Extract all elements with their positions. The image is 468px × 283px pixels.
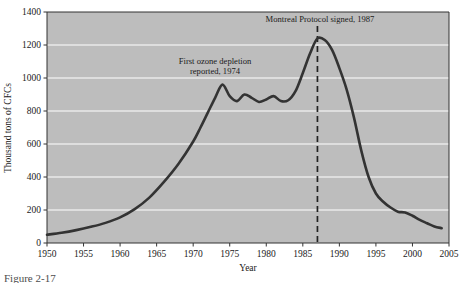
chart-svg: 0200400600800100012001400 19501955196019… [0,0,468,283]
x-tick-label: 1965 [147,249,166,259]
plot-background [47,12,449,243]
annotation-first-ozone-depletion-line1: First ozone depletion [179,56,252,66]
x-tick-label: 2005 [440,249,459,259]
y-tick-label: 1000 [22,73,41,83]
x-axis: 1950195519601965197019751980198519901995… [38,243,459,259]
y-tick-label: 1400 [22,7,41,17]
x-tick-label: 1970 [184,249,203,259]
x-tick-label: 1950 [38,249,57,259]
y-tick-label: 1200 [22,40,41,50]
x-tick-label: 1995 [366,249,385,259]
y-axis-title: Thousand tons of CFCs [3,83,13,173]
x-tick-label: 1955 [74,249,93,259]
x-tick-label: 1985 [293,249,312,259]
y-tick-label: 0 [36,238,41,248]
figure-caption: Figure 2-17 [4,272,56,283]
x-tick-label: 2000 [403,249,422,259]
x-tick-label: 1990 [330,249,349,259]
y-tick-label: 400 [27,172,42,182]
annotation-montreal-protocol: Montreal Protocol signed, 1987 [266,14,376,24]
y-tick-label: 800 [27,106,42,116]
y-tick-label: 600 [27,139,42,149]
x-tick-label: 1975 [220,249,239,259]
y-tick-label: 200 [27,205,42,215]
figure-container: 0200400600800100012001400 19501955196019… [0,0,468,283]
annotation-first-ozone-depletion-line2: reported, 1974 [190,66,241,76]
y-axis: 0200400600800100012001400 [22,7,47,248]
x-tick-label: 1960 [111,249,130,259]
x-tick-label: 1980 [257,249,276,259]
x-axis-title: Year [239,263,257,273]
